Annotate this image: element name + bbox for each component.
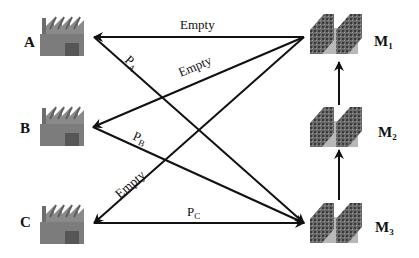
machine-label-m3-sub: 3	[389, 227, 394, 237]
machine-label-m2-main: M	[378, 124, 392, 140]
machine-label-m1-main: M	[374, 33, 388, 49]
edge-m1-to-b-empty	[93, 37, 304, 127]
machine-label-m3: M3	[375, 219, 394, 236]
machine-rack-icon	[310, 14, 362, 54]
edge-label-empty-a: Empty	[180, 17, 215, 33]
machine-label-m2: M2	[378, 124, 397, 141]
factory-icon	[40, 17, 84, 56]
machine-label-m1-sub: 1	[388, 41, 393, 51]
factory-label-b: B	[20, 120, 30, 137]
machine-label-m3-main: M	[375, 219, 389, 235]
machine-label-m1: M1	[374, 33, 393, 50]
factory-label-c: C	[20, 214, 31, 231]
machine-label-m2-sub: 2	[392, 132, 397, 142]
machine-rack-icon	[310, 107, 362, 147]
factory-icon	[40, 205, 84, 244]
factory-icon	[40, 107, 84, 146]
edge-label-pc: PC	[187, 204, 200, 220]
factory-label-a: A	[24, 34, 35, 51]
machine-rack-icon	[310, 203, 362, 243]
edge-label-pc-sub: C	[194, 211, 200, 221]
flow-diagram	[0, 0, 419, 258]
